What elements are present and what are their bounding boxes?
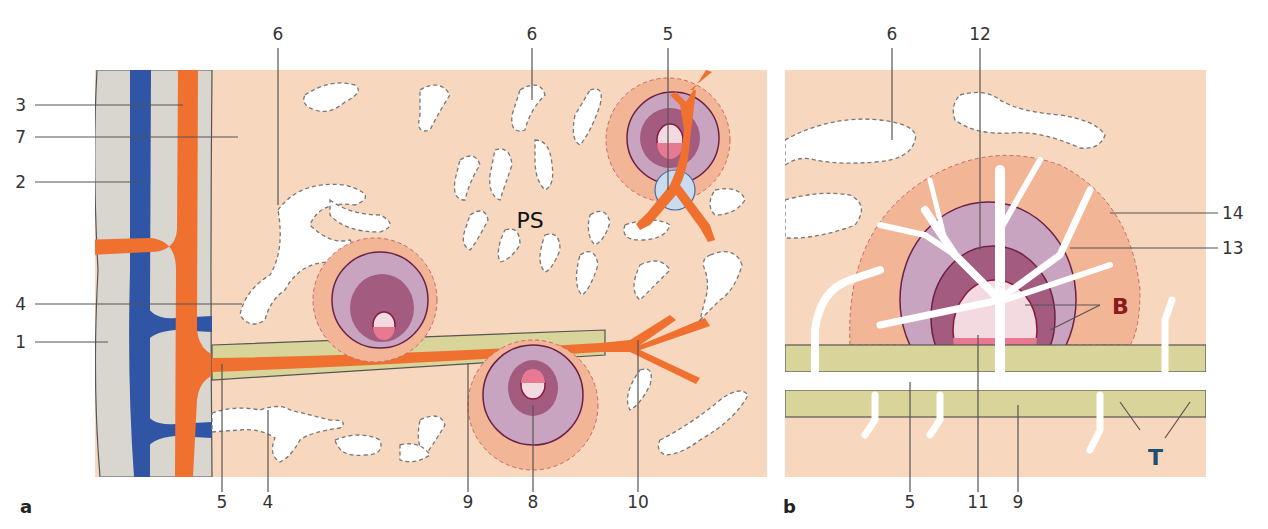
- label-PS: PS: [516, 208, 543, 233]
- label-5-top-a: 5: [663, 24, 674, 44]
- zone-label-B: B: [1112, 294, 1129, 319]
- label-11-bottom-b: 11: [967, 492, 989, 512]
- label-4: 4: [15, 294, 26, 314]
- panel-label-a: a: [20, 496, 32, 517]
- label-13: 13: [1222, 238, 1244, 258]
- label-5-bottom-b: 5: [905, 492, 916, 512]
- panel-label-b: b: [783, 496, 796, 517]
- sheath-lower: [785, 390, 1206, 417]
- label-6-top-b: 6: [887, 24, 898, 44]
- label-3: 3: [15, 95, 26, 115]
- label-9-bottom-b: 9: [1013, 492, 1024, 512]
- panel-a: 3 7 2 4 1 6 6 5 5 4 9 8 10 PS a: [15, 24, 767, 517]
- label-7: 7: [15, 127, 26, 147]
- label-8-bottom-a: 8: [528, 492, 539, 512]
- label-6-top-a1: 6: [273, 24, 284, 44]
- label-14: 14: [1222, 203, 1244, 223]
- spleen-histology-diagram: 3 7 2 4 1 6 6 5 5 4 9 8 10 PS a: [0, 0, 1268, 529]
- label-9-bottom-a: 9: [463, 492, 474, 512]
- label-6-top-a2: 6: [527, 24, 538, 44]
- zone-label-T: T: [1148, 445, 1163, 470]
- label-2: 2: [15, 172, 26, 192]
- label-5-bottom-a: 5: [217, 492, 228, 512]
- label-4-bottom-a: 4: [263, 492, 274, 512]
- label-10-bottom-a: 10: [627, 492, 649, 512]
- label-1: 1: [15, 332, 26, 352]
- label-12-top-b: 12: [969, 24, 991, 44]
- lymph-follicle-1: [313, 238, 437, 362]
- panel-b: 6 12 14 13 5 11 9 B T b: [783, 24, 1244, 517]
